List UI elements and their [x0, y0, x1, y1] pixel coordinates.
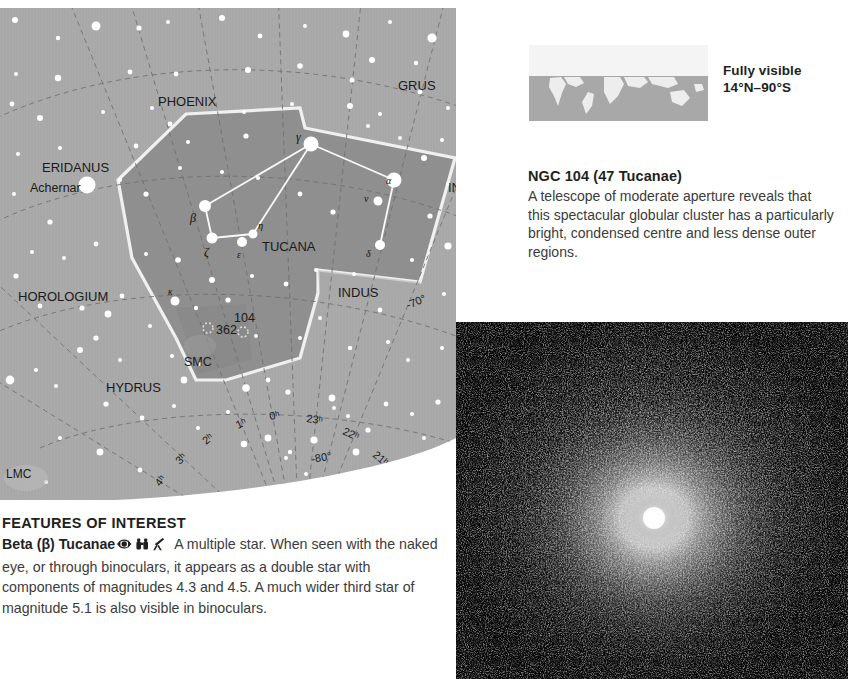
- label-smc: SMC: [184, 355, 212, 369]
- label-phoenix: PHOENIX: [158, 94, 217, 109]
- star-delta-tucanae: [375, 240, 385, 250]
- binoculars-icon: [137, 539, 149, 550]
- naked-eye-icon: [117, 540, 131, 548]
- star-epsilon-tucanae: [237, 237, 247, 247]
- label-eridanus: ERIDANUS: [42, 160, 110, 175]
- star-chart: -60° -70° -80° 4ʰ 3ʰ 2ʰ 1ʰ 0ʰ 23ʰ 22ʰ 21…: [0, 8, 456, 500]
- label-tucana: TUCANA: [262, 239, 316, 254]
- label-octans: OCTANS: [282, 483, 336, 498]
- star-eta-tucanae: [249, 230, 258, 239]
- label-grus: GRUS: [398, 78, 436, 93]
- cluster-core-peak: [643, 507, 665, 529]
- star-nu-tucanae: [374, 197, 383, 206]
- label-achernar: Achernar: [30, 181, 81, 195]
- telescope-icon: [153, 538, 164, 550]
- visibility-block: Fully visible 14°N–90°S: [528, 44, 838, 122]
- star-zeta-tucanae: [207, 233, 218, 244]
- ngc-body-text: A telescope of moderate aperture reveals…: [528, 187, 834, 261]
- label-indus-lower: INDUS: [338, 285, 379, 300]
- world-visibility-map: [528, 44, 709, 122]
- feature-entry-name: Beta (β) Tucanae: [2, 536, 115, 552]
- label-gamma: γ: [296, 130, 301, 144]
- label-kappa: κ: [168, 287, 173, 297]
- features-heading: FEATURES OF INTEREST: [2, 513, 442, 533]
- label-eta: η: [258, 220, 263, 231]
- label-epsilon: ε: [237, 250, 241, 260]
- star-kappa-tucanae: [171, 297, 180, 306]
- label-hydrus: HYDRUS: [106, 380, 161, 395]
- ra-label-23h: 23ʰ: [306, 412, 324, 426]
- label-ngc-104: 104: [234, 311, 255, 325]
- star-beta-tucanae: [199, 200, 211, 212]
- ngc-title: NGC 104 (47 Tucanae): [528, 167, 834, 186]
- label-horologium: HOROLOGIUM: [18, 289, 108, 304]
- ngc-description-block: NGC 104 (47 Tucanae) A telescope of mode…: [528, 167, 834, 261]
- label-delta: δ: [366, 248, 371, 259]
- label-indus-upper: INDUS: [448, 180, 456, 195]
- label-nu: ν: [364, 193, 369, 204]
- observation-icons: [117, 536, 171, 557]
- features-of-interest-section: FEATURES OF INTEREST Beta (β) Tucanae: [2, 513, 442, 618]
- label-beta: β: [189, 211, 196, 225]
- visibility-caption-line1: Fully visible: [723, 62, 848, 79]
- label-lmc: LMC: [6, 467, 32, 481]
- visibility-caption: Fully visible 14°N–90°S: [723, 62, 848, 96]
- features-body: Beta (β) Tucanae: [2, 534, 442, 618]
- visibility-caption-line2: 14°N–90°S: [723, 79, 848, 96]
- star-gamma-tucanae: [304, 137, 319, 152]
- globular-cluster-photograph: [456, 322, 848, 679]
- label-alpha: α: [386, 175, 392, 186]
- smc-patch: [184, 335, 216, 357]
- label-ngc-362: 362: [216, 323, 237, 337]
- ra-label-20h: 20ʰ: [390, 472, 410, 492]
- ra-label-0h: 0ʰ: [268, 408, 280, 422]
- star-achernar: [79, 177, 96, 194]
